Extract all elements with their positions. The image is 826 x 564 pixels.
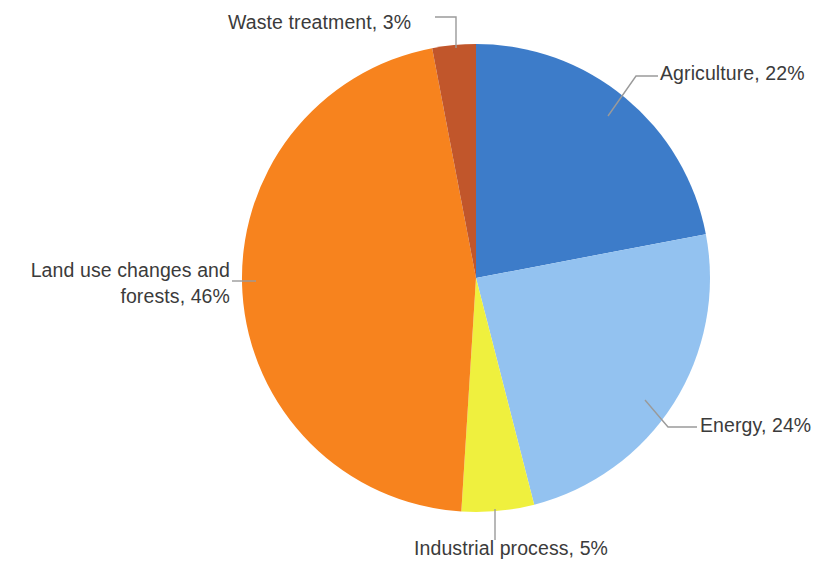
pie-chart: Waste treatment, 3% Agriculture, 22% Ene… [0, 0, 826, 564]
leader-line-waste-treatment [435, 17, 456, 48]
pie-slices-group [242, 44, 710, 512]
slice-label-land-use-line-1: Land use changes and [31, 259, 230, 281]
slice-label-industrial-process: Industrial process, 5% [414, 536, 608, 562]
slice-label-energy: Energy, 24% [700, 413, 811, 439]
slice-label-land-use-line-2: forests, 46% [120, 285, 230, 307]
slice-label-land-use-changes-and-forests: Land use changes and forests, 46% [8, 258, 230, 309]
slice-label-agriculture: Agriculture, 22% [660, 61, 805, 87]
slice-label-waste-treatment: Waste treatment, 3% [228, 10, 411, 36]
pie-slice-land-use-changes-and-forests[interactable] [242, 48, 476, 511]
